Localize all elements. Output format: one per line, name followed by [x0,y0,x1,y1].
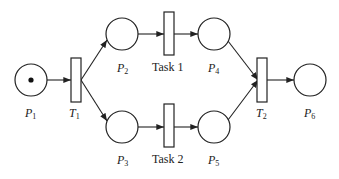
transitions [71,12,267,147]
token-icon [28,77,33,82]
label-task1: Task 1 [152,60,184,74]
place-p5 [198,111,230,143]
place-p6 [294,64,326,96]
transition-task1 [164,12,174,55]
arc-p4-t2 [228,41,258,80]
label-p5: P5 [207,153,219,168]
place-p2 [106,18,138,50]
arc-t1-p2 [81,40,107,80]
arc-p5-t2 [228,80,258,120]
label-p1: P1 [24,106,36,121]
label-p2: P2 [116,61,128,76]
label-p4: P4 [207,61,219,76]
transition-t2 [257,58,267,102]
petri-net-diagram: P1 T1 P2 Task 1 P4 T2 P6 P3 Task 2 P5 [0,0,339,179]
transition-task2 [164,104,174,147]
place-p4 [198,18,230,50]
label-t2: T2 [256,106,267,121]
label-t1: T1 [69,106,80,121]
label-p3: P3 [116,153,128,168]
transition-t1 [71,58,81,102]
arc-t1-p3 [81,80,107,121]
label-p6: P6 [303,106,315,121]
place-p3 [106,111,138,143]
label-task2: Task 2 [152,152,184,166]
